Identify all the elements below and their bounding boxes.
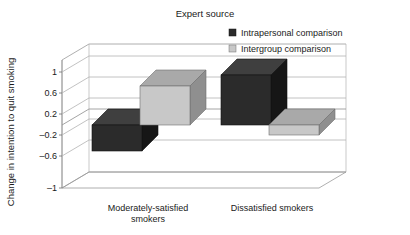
legend-label: Intrapersonal comparison (241, 28, 343, 38)
legend-swatch-icon (229, 29, 236, 36)
y-tick-label: –0.2 (39, 130, 57, 140)
legend-swatch-icon (229, 45, 236, 52)
category-label-line: Dissatisfied smokers (231, 203, 314, 213)
legend-item-intergroup[interactable]: Intergroup comparison (229, 44, 331, 54)
chart-title: Expert source (176, 8, 235, 19)
bar-front-face (269, 125, 319, 135)
floor-plane (62, 172, 346, 188)
bar-chart-svg: 1 0.6 0.2 –0.2 –0.6 –1 (0, 0, 410, 235)
legend-item-intrapersonal[interactable]: Intrapersonal comparison (229, 28, 343, 38)
bar-group2-intrapersonal[interactable] (221, 59, 287, 125)
bar-front-face (140, 86, 190, 125)
category-label-line: Moderately-satisfied (108, 203, 189, 213)
bar-front-face (221, 75, 271, 125)
legend-label: Intergroup comparison (241, 44, 331, 54)
y-tick-label: 1 (52, 67, 57, 77)
y-tick-label: 0.2 (44, 109, 57, 119)
y-tick-label: 0.6 (44, 88, 57, 98)
y-axis-title: Change in intention to quit smoking (5, 58, 16, 206)
bar-front-face (92, 125, 142, 151)
y-tick-label: –1 (47, 183, 57, 193)
y-tick-label: –0.6 (39, 151, 57, 161)
bar-group1-intergroup[interactable] (140, 70, 206, 125)
category-label-line: smokers (131, 214, 166, 224)
chart-container: 1 0.6 0.2 –0.2 –0.6 –1 (0, 0, 410, 235)
